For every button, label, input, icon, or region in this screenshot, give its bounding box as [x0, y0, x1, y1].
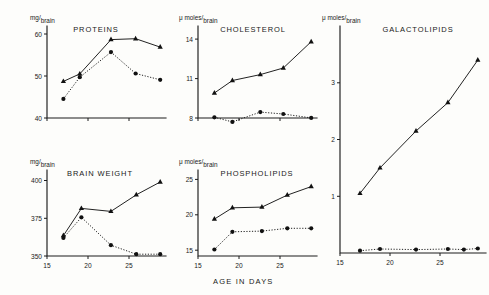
svg-text:40: 40 — [35, 115, 43, 122]
chart-cholesterol: μ moles/brain CHOLESTEROL 8 11 14 — [165, 8, 320, 143]
y-axis-label-phospholipids: μ moles/brain — [179, 158, 218, 168]
svg-text:20: 20 — [235, 262, 243, 269]
svg-text:375: 375 — [31, 215, 42, 222]
series-galactolipids-solid — [357, 57, 480, 195]
svg-text:3: 3 — [331, 79, 335, 86]
panel-title-phospholipids: PHOSPHOLIPIDS — [221, 169, 294, 178]
y-tick-labels-brain-weight: 350 375 400 — [31, 177, 42, 260]
series-phospholipids-dotted — [212, 226, 313, 251]
svg-text:15: 15 — [43, 262, 51, 269]
y-axis-label-galactolipids: μ moles/brain — [322, 14, 361, 24]
panel-brain-weight: mg/brain BRAIN WEIGHT 350 375 400 15 20 … — [14, 152, 169, 287]
panel-proteins: mg/brain PROTEINS 40 50 60 — [14, 8, 169, 143]
x-tick-labels-galactolipids: 15 20 25 — [336, 259, 444, 266]
svg-text:15: 15 — [194, 262, 202, 269]
x-tick-labels-brain-weight: 15 20 25 — [43, 262, 133, 269]
panel-galactolipids: μ moles/brain GALACTOLIPIDS 1 2 3 15 20 … — [310, 8, 488, 288]
svg-text:25: 25 — [186, 176, 194, 183]
svg-text:14: 14 — [186, 36, 194, 43]
panel-cholesterol: μ moles/brain CHOLESTEROL 8 11 14 — [165, 8, 320, 143]
x-tick-labels-phospholipids: 15 20 25 — [194, 262, 284, 269]
svg-text:25: 25 — [436, 259, 444, 266]
series-cholesterol-solid — [212, 39, 314, 95]
y-axis-label-proteins: mg/brain — [30, 14, 55, 24]
svg-text:60: 60 — [35, 31, 43, 38]
series-galactolipids-dotted — [358, 246, 480, 252]
chart-proteins: mg/brain PROTEINS 40 50 60 — [14, 8, 169, 143]
svg-text:20: 20 — [186, 211, 194, 218]
chart-galactolipids: μ moles/brain GALACTOLIPIDS 1 2 3 15 20 … — [310, 8, 488, 288]
series-cholesterol-dotted — [212, 110, 313, 124]
y-tick-labels-galactolipids: 1 2 3 — [331, 79, 335, 200]
svg-text:350: 350 — [31, 253, 42, 260]
axes-cholesterol — [195, 26, 317, 121]
x-axis-caption: AGE IN DAYS — [213, 277, 274, 286]
svg-text:2: 2 — [331, 136, 335, 143]
series-phospholipids-solid — [212, 184, 314, 221]
svg-text:8: 8 — [189, 115, 193, 122]
series-brain-weight-dotted — [61, 215, 162, 256]
figure-canvas: mg/brain PROTEINS 40 50 60 — [0, 0, 489, 295]
panel-title-proteins: PROTEINS — [73, 25, 119, 34]
svg-text:1: 1 — [331, 193, 335, 200]
y-tick-labels-proteins: 40 50 60 — [35, 31, 43, 122]
axes-proteins — [44, 26, 166, 121]
panel-title-brain-weight: BRAIN WEIGHT — [67, 169, 133, 178]
panel-title-galactolipids: GALACTOLIPIDS — [382, 25, 453, 34]
series-brain-weight-solid — [61, 179, 163, 237]
axes-phospholipids — [195, 170, 317, 259]
axes-galactolipids — [337, 26, 486, 256]
y-tick-labels-phospholipids: 15 20 25 — [186, 176, 194, 254]
chart-brain-weight: mg/brain BRAIN WEIGHT 350 375 400 15 20 … — [14, 152, 169, 287]
svg-text:25: 25 — [276, 262, 284, 269]
axes-brain-weight — [44, 170, 166, 259]
svg-text:11: 11 — [186, 75, 193, 82]
svg-text:20: 20 — [386, 259, 394, 266]
series-proteins-solid — [61, 36, 163, 83]
svg-text:25: 25 — [125, 262, 133, 269]
chart-phospholipids: μ moles/brain PHOSPHOLIPIDS 15 20 25 15 … — [165, 152, 320, 287]
y-axis-label-brain-weight: mg/brain — [30, 158, 55, 168]
y-axis-label-cholesterol: μ moles/brain — [179, 14, 218, 24]
panel-phospholipids: μ moles/brain PHOSPHOLIPIDS 15 20 25 15 … — [165, 152, 320, 287]
svg-text:15: 15 — [336, 259, 344, 266]
svg-text:400: 400 — [31, 177, 42, 184]
svg-text:50: 50 — [35, 73, 43, 80]
panel-title-cholesterol: CHOLESTEROL — [220, 25, 286, 34]
svg-text:20: 20 — [84, 262, 92, 269]
svg-text:15: 15 — [186, 247, 194, 254]
y-tick-labels-cholesterol: 8 11 14 — [186, 36, 194, 122]
